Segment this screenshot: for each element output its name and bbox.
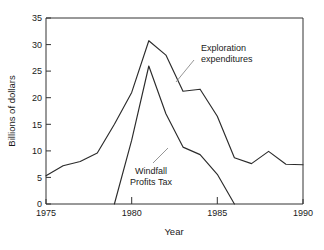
windfall-annotation: Windfall Profits Tax [130, 166, 172, 187]
x-tick-label-1985: 1985 [207, 208, 227, 218]
y-axis-ticks [46, 18, 51, 204]
x-tick-label-1975: 1975 [36, 208, 56, 218]
exploration-annotation-line-1: Exploration [201, 43, 246, 53]
exploration-annotation-line-2: expenditures [201, 54, 253, 64]
chart-figure: 0 5 10 15 20 25 30 35 1975 1980 1985 199… [0, 0, 324, 250]
x-axis-title: Year [164, 226, 183, 237]
y-tick-label-35: 35 [32, 13, 42, 23]
y-axis-title: Billions of dollars [6, 75, 17, 147]
y-tick-label-30: 30 [32, 40, 42, 50]
windfall-annotation-line-2: Profits Tax [130, 177, 172, 187]
line-chart: 0 5 10 15 20 25 30 35 1975 1980 1985 199… [0, 0, 324, 250]
x-axis-ticks [46, 197, 303, 204]
series-line-exploration-expenditures [46, 41, 303, 176]
windfall-annotation-line-1: Windfall [135, 166, 167, 176]
exploration-leader-line [176, 60, 194, 82]
y-tick-label-25: 25 [32, 66, 42, 76]
y-tick-label-5: 5 [37, 173, 42, 183]
y-tick-label-15: 15 [32, 120, 42, 130]
plot-frame [46, 18, 303, 204]
y-tick-label-20: 20 [32, 93, 42, 103]
x-axis-tick-labels: 1975 1980 1985 1990 [36, 208, 313, 218]
y-tick-label-10: 10 [32, 146, 42, 156]
x-tick-label-1990: 1990 [293, 208, 313, 218]
y-axis-tick-labels: 0 5 10 15 20 25 30 35 [32, 13, 42, 209]
windfall-leader-line [153, 148, 168, 163]
exploration-annotation: Exploration expenditures [201, 43, 253, 64]
x-tick-label-1980: 1980 [122, 208, 142, 218]
